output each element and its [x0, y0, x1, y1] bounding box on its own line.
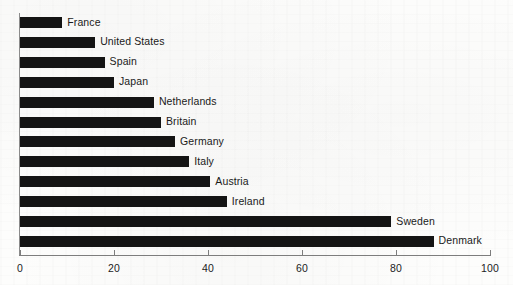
bar-germany [20, 136, 175, 147]
bar-row: Spain [20, 57, 305, 68]
bar-britain [20, 117, 161, 128]
bar-row: Denmark [20, 236, 513, 247]
bar-label-austria: Austria [215, 174, 248, 188]
bar-spain [20, 57, 105, 68]
x-axis-line [19, 255, 491, 256]
bar-label-united-states: United States [100, 34, 164, 48]
x-tick-0 [20, 250, 21, 255]
bar-row: France [20, 17, 262, 28]
bar-united-states [20, 37, 95, 48]
bar-label-france: France [67, 15, 100, 29]
bar-netherlands [20, 97, 154, 108]
bar-label-japan: Japan [119, 74, 148, 88]
bar-label-denmark: Denmark [439, 233, 482, 247]
bar-row: Germany [20, 136, 375, 147]
x-tick-label-100: 100 [481, 262, 499, 274]
bar-italy [20, 156, 189, 167]
bar-label-italy: Italy [194, 154, 214, 168]
bar-france [20, 17, 62, 28]
bar-sweden [20, 216, 391, 227]
bar-row: Italy [20, 156, 389, 167]
x-tick-label-0: 0 [17, 262, 23, 274]
bar-row: Japan [20, 77, 314, 88]
bar-japan [20, 77, 114, 88]
x-tick-80 [396, 250, 397, 255]
x-tick-20 [114, 250, 115, 255]
bar-ireland [20, 196, 227, 207]
x-tick-100 [490, 250, 491, 255]
bar-denmark [20, 236, 434, 247]
plot-area: 020406080100 FranceUnited StatesSpainJap… [0, 0, 513, 285]
bar-label-ireland: Ireland [232, 194, 265, 208]
bar-row: Sweden [20, 216, 513, 227]
x-tick-40 [208, 250, 209, 255]
bar-label-spain: Spain [110, 54, 137, 68]
bar-row: United States [20, 37, 295, 48]
bar-austria [20, 176, 210, 187]
x-tick-label-20: 20 [108, 262, 120, 274]
x-tick-label-40: 40 [202, 262, 214, 274]
bar-label-sweden: Sweden [396, 214, 435, 228]
x-tick-60 [302, 250, 303, 255]
bar-chart: 020406080100 FranceUnited StatesSpainJap… [0, 0, 513, 285]
bar-row: Ireland [20, 196, 427, 207]
bar-label-germany: Germany [180, 134, 224, 148]
x-tick-label-80: 80 [390, 262, 402, 274]
bar-label-netherlands: Netherlands [159, 94, 217, 108]
bar-row: Netherlands [20, 97, 354, 108]
x-tick-label-60: 60 [296, 262, 308, 274]
bar-label-britain: Britain [166, 114, 196, 128]
bar-row: Britain [20, 117, 361, 128]
bar-row: Austria [20, 176, 410, 187]
